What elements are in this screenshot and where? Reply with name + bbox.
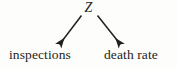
edge-z-to-death-rate [98, 16, 121, 45]
node-label-inspections: inspections [9, 48, 71, 62]
causal-diagram: Z inspections death rate [0, 0, 177, 68]
node-label-death-rate: death rate [104, 48, 158, 62]
edge-z-to-inspections [60, 16, 82, 45]
node-label-confounder-z: Z [0, 1, 177, 15]
